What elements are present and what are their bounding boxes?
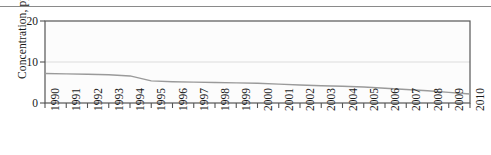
x-tick-label-2006: 2006 [389, 88, 401, 111]
x-tick-label-2002: 2002 [304, 88, 316, 111]
x-tick-label-1991: 1991 [70, 88, 82, 111]
x-tick-marks [45, 103, 470, 108]
x-tick-label-2005: 2005 [368, 88, 380, 111]
x-tick-label-2009: 2009 [453, 88, 465, 111]
x-tick-label-1998: 1998 [219, 88, 231, 111]
y-tick-label-10: 10 [16, 56, 38, 68]
chart-figure: Concentration, ppb 20 10 0 1990199119921… [0, 0, 491, 155]
x-tick-label-2008: 2008 [432, 88, 444, 111]
x-tick-label-2000: 2000 [262, 88, 274, 111]
x-tick-label-1997: 1997 [198, 88, 210, 111]
plot-area-wrapper: Concentration, ppb 20 10 0 1990199119921… [0, 0, 491, 155]
x-tick-label-2001: 2001 [283, 88, 295, 111]
x-tick-label-1996: 1996 [177, 88, 189, 111]
x-tick-label-2010: 2010 [474, 88, 486, 111]
y-axis-title: Concentration, ppb [16, 0, 28, 89]
x-tick-label-1990: 1990 [49, 88, 61, 111]
x-tick-label-1993: 1993 [113, 88, 125, 111]
x-tick-label-1995: 1995 [155, 88, 167, 111]
y-tick-label-0: 0 [16, 97, 38, 109]
x-tick-label-2007: 2007 [410, 88, 422, 111]
y-tick-label-20: 20 [16, 15, 38, 27]
x-tick-label-1994: 1994 [134, 88, 146, 111]
x-tick-label-2003: 2003 [325, 88, 337, 111]
x-tick-label-1992: 1992 [92, 88, 104, 111]
x-tick-label-2004: 2004 [347, 88, 359, 111]
line-chart-svg [0, 0, 491, 155]
x-tick-label-1999: 1999 [240, 88, 252, 111]
y-tick-marks [40, 21, 45, 103]
